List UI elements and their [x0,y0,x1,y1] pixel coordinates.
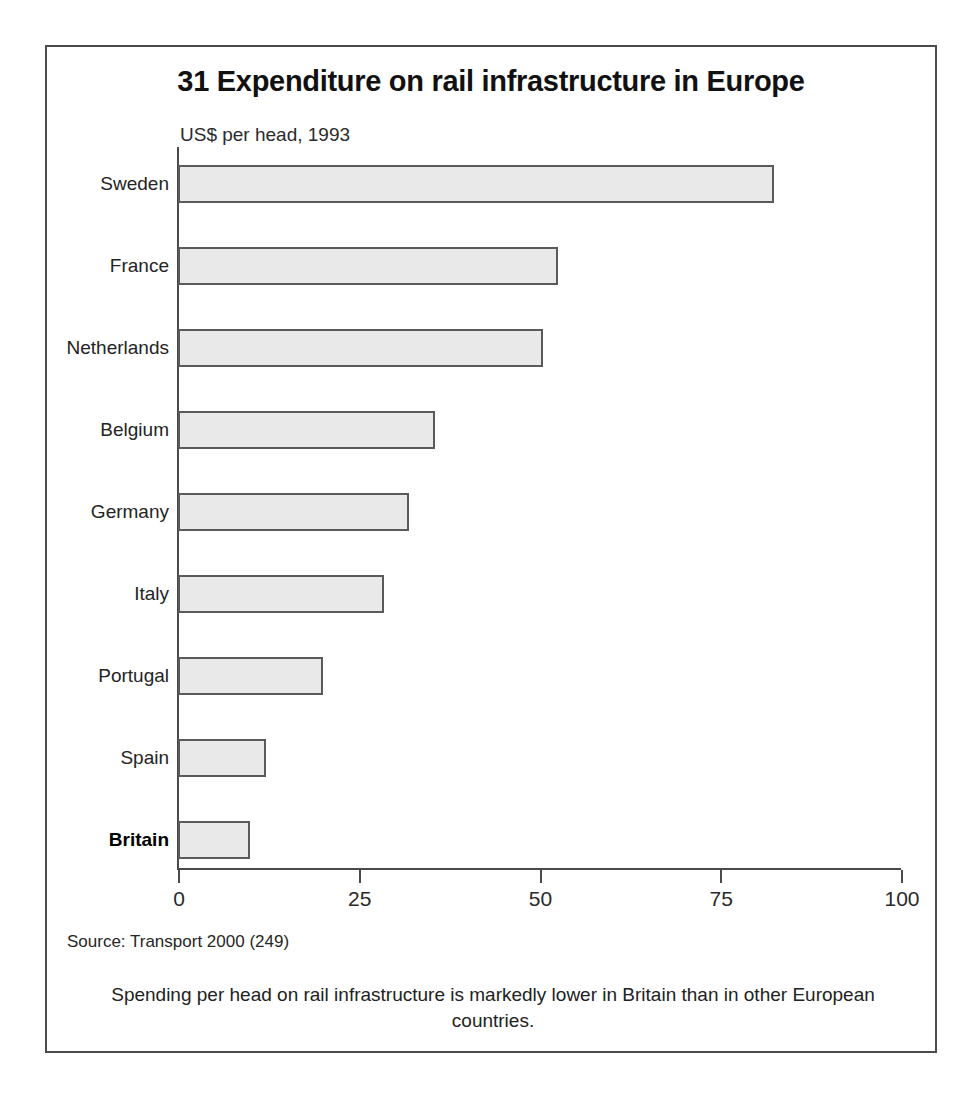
x-axis-tick-label: 100 [884,887,919,911]
bar [178,575,384,613]
plot-area: SwedenFranceNetherlandsBelgiumGermanyIta… [47,47,939,1055]
bar-category-label: France [110,247,169,285]
x-axis-tick-label: 0 [173,887,185,911]
bar [178,657,323,695]
figure-caption: Spending per head on rail infrastructure… [107,982,879,1033]
bar-category-label: Italy [134,575,169,613]
bar [178,165,774,203]
bar [178,821,250,859]
bar [178,411,435,449]
bar-category-label: Spain [120,739,169,777]
bar-category-label: Netherlands [67,329,169,367]
x-axis-tick-label: 75 [710,887,733,911]
bar-category-label: Portugal [98,657,169,695]
source-note: Source: Transport 2000 (249) [67,932,289,952]
x-axis-tick [359,870,361,883]
x-axis-tick [901,870,903,883]
x-axis-tick-label: 50 [529,887,552,911]
bar [178,247,558,285]
figure-frame: 31 Expenditure on rail infrastructure in… [45,45,937,1053]
bar-category-label: Sweden [100,165,169,203]
x-axis-tick [540,870,542,883]
bar [178,493,409,531]
x-axis-tick [178,870,180,883]
x-axis-tick-label: 25 [348,887,371,911]
bar-category-label: Britain [109,821,169,859]
bar-category-label: Belgium [100,411,169,449]
x-axis-tick [720,870,722,883]
bar-category-label: Germany [91,493,169,531]
bar [178,329,543,367]
bar [178,739,266,777]
